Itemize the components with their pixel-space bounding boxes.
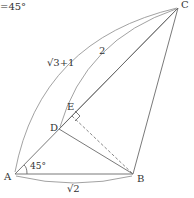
point-label-a: A: [3, 171, 12, 182]
header-text: =45°: [0, 1, 26, 12]
point-label-b: B: [137, 173, 144, 184]
segment-bc: [133, 8, 178, 174]
point-label-e: E: [67, 101, 74, 112]
length-label-ab: √2: [67, 183, 80, 194]
angle-arc-icon: [24, 165, 27, 174]
arc-ac-length: [15, 8, 177, 172]
segment-dc: [59, 8, 178, 129]
segment-eb-dashed: [72, 116, 133, 174]
point-label-d: D: [50, 122, 58, 133]
length-label-ac: √3+1: [47, 57, 74, 68]
angle-label-45: 45°: [30, 161, 46, 171]
point-label-c: C: [181, 0, 189, 10]
arc-ab-length: [16, 176, 132, 183]
diagram-canvas: =45° A B C D E 45° √3+1 2 √2: [0, 0, 194, 198]
segment-db: [59, 129, 133, 174]
geometry-diagram: =45° A B C D E 45° √3+1 2 √2: [0, 0, 194, 198]
length-label-dc: 2: [99, 45, 105, 56]
arc-dc-length: [60, 9, 176, 127]
